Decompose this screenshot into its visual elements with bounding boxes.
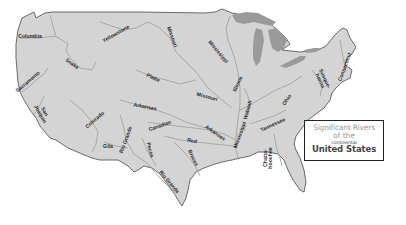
river-label-columbia: Columbia [18, 34, 42, 39]
river-label-chatta-hoochee: Chatta- hoochee [263, 147, 274, 168]
title-line-4: United States [305, 145, 383, 154]
us-landmass [16, 9, 356, 206]
river-label-gila: Gila [103, 144, 113, 149]
us-rivers-map [0, 0, 406, 225]
map-title-box: Significant Rivers of the continental Un… [304, 120, 384, 161]
title-line-2: of the [305, 132, 383, 140]
